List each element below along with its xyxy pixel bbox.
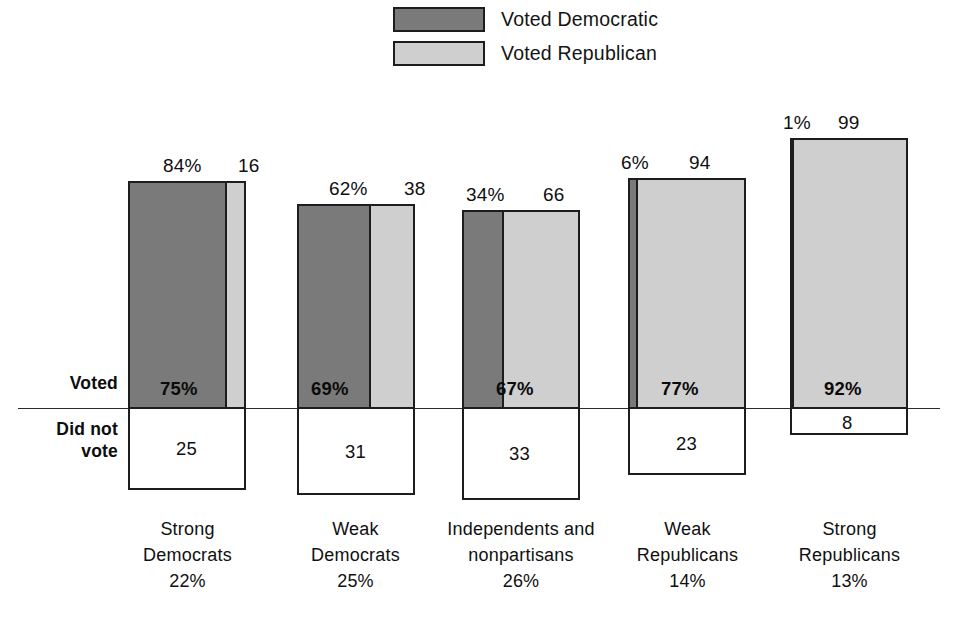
did-not-vote-value-label-3: 33 bbox=[509, 443, 530, 465]
chart-plot-area: Voted Did not vote 84% 16 75% 25 Strong … bbox=[0, 0, 958, 630]
segment-divider-4 bbox=[636, 180, 638, 407]
category-line1-2: Weak bbox=[283, 516, 428, 542]
did-not-vote-value-label-4: 23 bbox=[676, 433, 697, 455]
did-not-vote-value-label-2: 31 bbox=[345, 441, 366, 463]
category-line2-3: nonpartisans bbox=[438, 542, 604, 568]
did-not-vote-value-label-1: 25 bbox=[176, 438, 197, 460]
segment-republican-4 bbox=[637, 180, 744, 407]
rep-value-label-4: 94 bbox=[689, 152, 711, 174]
dem-value-label-3: 34% bbox=[466, 184, 505, 206]
category-label-strong-republicans: Strong Republicans 13% bbox=[776, 516, 923, 594]
voted-bar-4[interactable] bbox=[628, 178, 746, 409]
category-line1-1: Strong bbox=[115, 516, 260, 542]
segment-republican-1 bbox=[226, 183, 244, 407]
category-share-3: 26% bbox=[438, 568, 604, 594]
category-share-4: 14% bbox=[614, 568, 761, 594]
voted-bar-5[interactable] bbox=[790, 138, 908, 409]
axis-label-did-not-vote-line2: vote bbox=[0, 440, 118, 462]
voted-bar-1[interactable] bbox=[128, 181, 246, 409]
category-line2-5: Republicans bbox=[776, 542, 923, 568]
dem-value-label-1: 84% bbox=[163, 155, 202, 177]
did-not-vote-value-label-5: 8 bbox=[842, 412, 853, 434]
rep-value-label-5: 99 bbox=[838, 112, 860, 134]
rep-value-label-2: 38 bbox=[404, 178, 426, 200]
category-label-independents-and-nonpartisans: Independents and nonpartisans 26% bbox=[438, 516, 604, 594]
category-label-weak-democrats: Weak Democrats 25% bbox=[283, 516, 428, 594]
category-line1-4: Weak bbox=[614, 516, 761, 542]
segment-divider-1 bbox=[225, 183, 227, 407]
category-line2-4: Republicans bbox=[614, 542, 761, 568]
category-share-2: 25% bbox=[283, 568, 428, 594]
dem-value-label-2: 62% bbox=[329, 178, 368, 200]
category-label-weak-republicans: Weak Republicans 14% bbox=[614, 516, 761, 594]
segment-republican-5 bbox=[793, 140, 906, 407]
dem-value-label-5: 1% bbox=[783, 112, 811, 134]
voted-pct-label-1: 75% bbox=[160, 378, 198, 400]
category-share-5: 13% bbox=[776, 568, 923, 594]
axis-label-did-not-vote: Did not vote bbox=[0, 418, 118, 462]
segment-divider-2 bbox=[369, 206, 371, 407]
category-line1-5: Strong bbox=[776, 516, 923, 542]
segment-divider-5 bbox=[792, 140, 794, 407]
category-label-strong-democrats: Strong Democrats 22% bbox=[115, 516, 260, 594]
segment-democratic-1 bbox=[130, 183, 226, 407]
segment-republican-2 bbox=[370, 206, 413, 407]
category-line2-1: Democrats bbox=[115, 542, 260, 568]
voted-pct-label-3: 67% bbox=[496, 378, 534, 400]
rep-value-label-1: 16 bbox=[238, 155, 260, 177]
category-share-1: 22% bbox=[115, 568, 260, 594]
category-line2-2: Democrats bbox=[283, 542, 428, 568]
dem-value-label-4: 6% bbox=[621, 152, 649, 174]
voted-pct-label-5: 92% bbox=[824, 378, 862, 400]
category-line1-3: Independents and bbox=[438, 516, 604, 542]
axis-label-did-not-vote-line1: Did not bbox=[0, 418, 118, 440]
voted-pct-label-2: 69% bbox=[311, 378, 349, 400]
segment-democratic-2 bbox=[299, 206, 370, 407]
axis-label-voted: Voted bbox=[0, 372, 118, 394]
voted-pct-label-4: 77% bbox=[661, 378, 699, 400]
rep-value-label-3: 66 bbox=[543, 184, 565, 206]
